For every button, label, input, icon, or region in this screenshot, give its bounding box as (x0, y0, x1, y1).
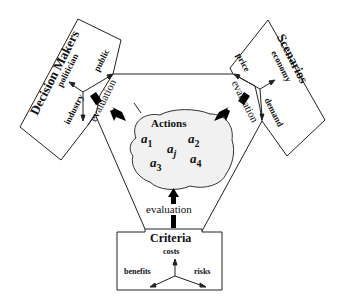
criteria-axis-benefits: benefits (124, 268, 151, 276)
action-aj: aj (167, 142, 176, 159)
criteria-evaluation-label: evaluation (146, 204, 192, 215)
frame-left-stub (134, 103, 141, 113)
action-a3: a3 (150, 156, 162, 173)
criteria-title: Criteria (150, 232, 191, 244)
criteria-axis-costs: costs (163, 248, 179, 256)
left-arrow-head (110, 107, 126, 121)
criteria-axis-risks: risks (194, 268, 210, 276)
action-a1: a1 (141, 132, 153, 149)
action-a4: a4 (190, 152, 202, 169)
action-a2: a2 (188, 132, 200, 149)
bottom-arrow-head (168, 188, 179, 204)
bottom-arrow-tail (171, 215, 176, 228)
actions-title: Actions (151, 118, 186, 129)
